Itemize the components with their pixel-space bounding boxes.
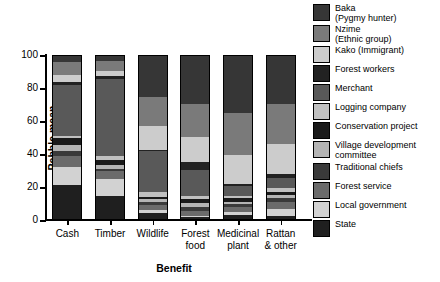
bar-segment: [139, 197, 167, 199]
bar-segment: [224, 55, 252, 113]
x-category-label: Cash: [56, 228, 79, 240]
y-tick-label: 100: [21, 50, 38, 60]
x-category-label: Timber: [95, 228, 126, 240]
bar-segment: [96, 160, 124, 165]
x-axis-title: Benefit: [46, 262, 302, 274]
legend-swatch-icon: [313, 65, 330, 82]
legend-item-label: Forest workers: [335, 65, 395, 75]
bar-segment: [96, 76, 124, 78]
stacked-bar[interactable]: [223, 55, 253, 220]
legend-item[interactable]: State: [313, 220, 440, 237]
legend-item-label: Merchant: [335, 84, 373, 94]
legend-item-label: Traditional chiefs: [335, 163, 403, 173]
legend-item-label: Village developmentcommittee: [335, 141, 416, 160]
bar-group: Forestfood: [180, 55, 210, 220]
bar-segment: [96, 55, 124, 61]
bar-segment: [96, 169, 124, 171]
legend-swatch-icon: [313, 141, 330, 158]
bar-group: Rattan& other: [266, 55, 296, 220]
legend-item[interactable]: Local government: [313, 201, 440, 218]
y-tick-label: 0: [32, 215, 38, 225]
bar-segment: [224, 155, 252, 184]
x-tick-mark: [195, 220, 197, 225]
bar-segment: [139, 210, 167, 213]
legend-swatch-icon: [313, 220, 330, 237]
legend-item[interactable]: Nzime(Ethnic group): [313, 25, 440, 44]
legend-item[interactable]: Merchant: [313, 84, 440, 101]
y-tick-mark: [40, 55, 46, 57]
bar-segment: [53, 55, 81, 62]
x-category-label: Medicinalplant: [217, 228, 259, 251]
legend-item[interactable]: Traditional chiefs: [313, 163, 440, 180]
stacked-bar[interactable]: [266, 55, 296, 220]
legend-item-label: Baka(Pygmy hunter): [335, 4, 397, 23]
y-tick-mark: [40, 187, 46, 189]
legend-item[interactable]: Baka(Pygmy hunter): [313, 4, 440, 23]
bar-segment: [181, 104, 209, 137]
bar-segment: [53, 156, 81, 167]
bar-segment: [53, 167, 81, 185]
legend-item[interactable]: Conservation project: [313, 122, 440, 139]
bar-segment: [267, 55, 295, 104]
bar-segment: [96, 71, 124, 76]
bar-group: Wildlife: [138, 55, 168, 220]
bar-segment: [267, 202, 295, 209]
bar-segment: [181, 199, 209, 203]
stacked-bar[interactable]: [52, 55, 82, 220]
x-category-label: Rattan& other: [265, 228, 297, 251]
bar-segment: [181, 170, 209, 196]
legend-item[interactable]: Kako (Immigrant): [313, 46, 440, 63]
stacked-bar[interactable]: [180, 55, 210, 220]
bar-group: Cash: [52, 55, 82, 220]
bar-segment: [267, 188, 295, 192]
stacked-bar[interactable]: [138, 55, 168, 220]
bar-segment: [181, 196, 209, 199]
bar-segment: [181, 137, 209, 163]
x-tick-mark: [238, 220, 240, 225]
x-tick-mark: [67, 220, 69, 225]
legend-item[interactable]: Logging company: [313, 103, 440, 120]
bar-group: Medicinalplant: [223, 55, 253, 220]
bar-segment: [139, 150, 167, 152]
bar-segment: [267, 198, 295, 201]
bar-segment: [53, 145, 81, 151]
bar-segment: [181, 216, 209, 218]
legend-swatch-icon: [313, 46, 330, 63]
bar-segment: [139, 55, 167, 97]
legend-item-label: Conservation project: [335, 122, 418, 132]
bar-segment: [96, 156, 124, 159]
bar-segment: [139, 205, 167, 210]
bar-segment: [96, 171, 124, 178]
bar-segment: [53, 62, 81, 74]
bar-segment: [96, 179, 124, 196]
legend-swatch-icon: [313, 182, 330, 199]
legend-item[interactable]: Village developmentcommittee: [313, 141, 440, 160]
bar-segment: [139, 97, 167, 126]
legend-item[interactable]: Forest service: [313, 182, 440, 199]
y-tick-label: 60: [27, 116, 38, 126]
x-tick-mark: [281, 220, 283, 225]
legend-swatch-icon: [313, 25, 330, 42]
bar-segment: [267, 195, 295, 198]
legend-swatch-icon: [313, 122, 330, 139]
x-category-label: Forestfood: [181, 228, 209, 251]
bar-segment: [181, 203, 209, 206]
bar-segment: [53, 136, 81, 138]
bar-segment: [139, 213, 167, 219]
bar-segment: [53, 185, 81, 219]
y-tick-mark: [40, 154, 46, 156]
plot-area: Pebble mean Benefit 020406080100 CashTim…: [46, 55, 302, 220]
bar-segment: [139, 202, 167, 205]
stacked-bar[interactable]: [95, 55, 125, 220]
bar-segment: [267, 178, 295, 188]
bar-segment: [96, 79, 124, 157]
legend-swatch-icon: [313, 84, 330, 101]
y-tick-label: 20: [27, 182, 38, 192]
legend-item-label: Kako (Immigrant): [335, 46, 404, 56]
legend-item-label: Local government: [335, 201, 407, 211]
legend-item[interactable]: Forest workers: [313, 65, 440, 82]
bar-segment: [224, 113, 252, 155]
bar-segment: [53, 85, 81, 136]
x-category-label: Wildlife: [137, 228, 169, 240]
bar-segment: [181, 55, 209, 104]
